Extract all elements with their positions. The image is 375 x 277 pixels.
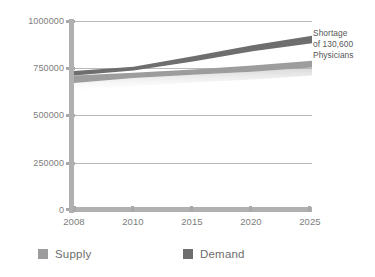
legend-label-supply: Supply [55,248,91,260]
x-tick-mark [308,206,311,212]
chart-legend: Supply Demand [0,246,375,270]
x-tick-mark [73,206,76,212]
x-axis-tick-label: 2008 [52,216,96,227]
legend-label-demand: Demand [200,248,245,260]
legend-item-supply: Supply [38,248,91,260]
legend-swatch-supply [38,249,48,259]
x-tick-mark [190,206,193,212]
x-tick-mark [131,206,134,212]
legend-item-demand: Demand [183,248,245,260]
shortage-annotation-line-2: of 130,600 [313,39,375,50]
shortage-annotation-line-1: Shortage [313,28,375,39]
x-axis-tick-label: 2025 [288,216,332,227]
shortage-annotation-line-3: Physicians [313,50,375,61]
shortage-annotation: Shortage of 130,600 Physicians [313,28,375,62]
x-axis-tick-label: 2020 [229,216,273,227]
y-axis-line [69,19,74,213]
x-tick-mark [249,206,252,212]
x-axis-tick-label: 2010 [111,216,155,227]
physician-supply-demand-chart: 1000000 750000 500000 250000 0 [0,0,375,277]
x-axis-tick-label: 2015 [170,216,214,227]
legend-swatch-demand [183,249,193,259]
